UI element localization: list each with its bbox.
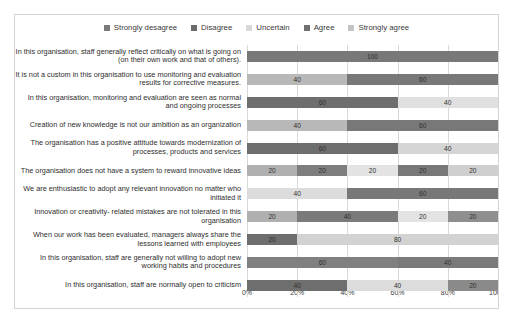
bar-segment-value: 40 [294,122,301,129]
bar-segment[interactable]: 20 [297,165,347,176]
chart-row: Creation of new knowledge is not our amb… [15,114,498,137]
legend-item[interactable]: Strongly desagree [104,23,177,32]
bar-track: 6040 [247,91,498,114]
bar-segment-value: 40 [444,145,451,152]
legend-swatch-icon [348,25,354,31]
bar-segment-value: 60 [419,190,426,197]
legend-label: Disagree [201,23,232,32]
bar-segment[interactable]: 40 [398,143,498,154]
bar-segment[interactable]: 40 [398,257,498,268]
bar-track: 20402020 [247,205,498,228]
bar-segment-value: 60 [319,145,326,152]
bar-segment[interactable]: 40 [398,97,498,108]
bar-track: 6040 [247,137,498,160]
gridline [498,228,499,251]
bar-segment[interactable]: 20 [448,280,498,291]
legend-item[interactable]: Disagree [191,23,232,32]
bar-segment-value: 100 [367,53,378,60]
chart-row: When our work has been evaluated, manage… [15,228,498,251]
bar-track: 2080 [247,228,498,251]
bar-segment[interactable]: 20 [347,165,397,176]
stacked-bar: 404020 [247,280,498,291]
bar-segment[interactable]: 40 [347,280,447,291]
legend-label: Uncertain [256,23,289,32]
chart-row: Innovation or creativity- related mistak… [15,205,498,228]
bar-segment[interactable]: 100 [247,51,498,62]
bar-segment-value: 40 [294,190,301,197]
bar-segment[interactable]: 40 [247,188,347,199]
bar-segment[interactable]: 60 [347,188,498,199]
legend-label: Agree [314,23,335,32]
bar-segment[interactable]: 40 [247,280,347,291]
bar-segment-value: 60 [419,122,426,129]
bar-segment[interactable]: 60 [247,143,398,154]
gridline [498,114,499,137]
category-label: It is not a custom in this organisation … [15,71,247,88]
chart-legend: Strongly desagreeDisagreeUncertainAgreeS… [15,23,498,32]
bar-segment[interactable]: 20 [398,211,448,222]
bar-segment-value: 20 [319,167,326,174]
bar-segment-value: 60 [419,76,426,83]
bar-segment[interactable]: 60 [247,257,398,268]
category-label: Innovation or creativity- related mistak… [15,208,247,225]
bar-track: 4060 [247,68,498,91]
bar-segment[interactable]: 20 [247,234,297,245]
chart-container: Strongly desagreeDisagreeUncertainAgreeS… [14,14,499,309]
x-tick-mark [498,284,499,287]
chart-row: We are enthusiastic to adopt any relevan… [15,182,498,205]
stacked-bar: 6040 [247,97,498,108]
chart-row: The organisation has a positive attitude… [15,137,498,160]
bar-track: 100 [247,45,498,68]
stacked-bar: 2080 [247,234,498,245]
bar-segment[interactable]: 80 [297,234,498,245]
stacked-bar: 20402020 [247,211,498,222]
bar-segment[interactable]: 40 [247,74,347,85]
bar-segment-value: 20 [469,167,476,174]
bar-track: 6040 [247,251,498,274]
bar-segment-value: 40 [294,282,301,289]
bar-segment-value: 20 [268,213,275,220]
gridline [498,251,499,274]
stacked-bar: 2020202020 [247,165,498,176]
category-label: We are enthusiastic to adopt any relevan… [15,185,247,202]
category-label: In this organisation, staff are generall… [15,254,247,271]
category-label: Creation of new knowledge is not our amb… [15,121,247,130]
bar-segment-value: 40 [344,213,351,220]
bar-segment-value: 20 [469,213,476,220]
bar-segment[interactable]: 20 [247,165,297,176]
category-label: When our work has been evaluated, manage… [15,231,247,248]
gridline [498,159,499,182]
bar-segment-value: 20 [419,213,426,220]
bar-segment-value: 60 [319,99,326,106]
gridline [498,45,499,68]
legend-label: Strongly agree [358,23,409,32]
bar-track: 4060 [247,114,498,137]
gridline [498,205,499,228]
legend-swatch-icon [304,25,310,31]
legend-item[interactable]: Strongly agree [348,23,409,32]
bar-segment-value: 20 [469,282,476,289]
legend-label: Strongly desagree [114,23,177,32]
bar-segment[interactable]: 40 [247,120,347,131]
category-label: The organisation does not have a system … [15,167,247,176]
bar-segment[interactable]: 20 [247,211,297,222]
stacked-bar: 4060 [247,74,498,85]
legend-item[interactable]: Agree [304,23,335,32]
legend-swatch-icon [246,25,252,31]
stacked-bar: 100 [247,51,498,62]
bar-segment[interactable]: 60 [247,97,398,108]
bar-segment-value: 80 [394,236,401,243]
stacked-bar: 6040 [247,143,498,154]
bar-segment[interactable]: 40 [297,211,397,222]
legend-item[interactable]: Uncertain [246,23,289,32]
bar-segment[interactable]: 20 [448,211,498,222]
category-label: In this organisation, monitoring and eva… [15,94,247,111]
bar-segment[interactable]: 20 [448,165,498,176]
bar-segment[interactable]: 20 [398,165,448,176]
bar-segment[interactable]: 60 [347,120,498,131]
bar-segment-value: 20 [268,236,275,243]
bar-segment[interactable]: 60 [347,74,498,85]
bar-segment-value: 40 [394,282,401,289]
chart-row: In this organisation, monitoring and eva… [15,91,498,114]
bar-segment-value: 40 [444,259,451,266]
